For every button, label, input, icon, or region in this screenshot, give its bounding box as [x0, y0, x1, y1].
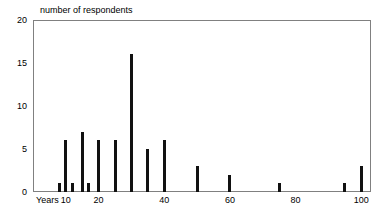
x-tick-label: 20: [94, 196, 104, 205]
x-tick-label: 60: [225, 196, 235, 205]
x-tick-label: 100: [354, 196, 369, 205]
histogram-chart: number of respondents 05101520 Years 102…: [0, 0, 384, 223]
x-axis: Years 1020406080100: [0, 0, 384, 223]
x-tick-label: 80: [291, 196, 301, 205]
x-tick-label: 10: [61, 196, 71, 205]
x-tick-label: 40: [159, 196, 169, 205]
x-axis-title: Years: [36, 196, 59, 205]
